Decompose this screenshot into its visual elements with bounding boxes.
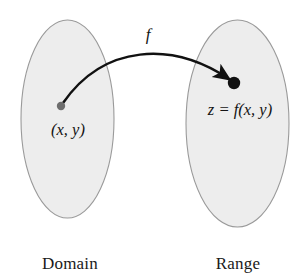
range-point-dot xyxy=(228,77,240,89)
domain-point-dot xyxy=(57,102,65,110)
range-caption: Range xyxy=(176,254,300,274)
range-point-label: z = f(x, y) xyxy=(188,100,292,120)
domain-ellipse xyxy=(21,20,114,218)
function-arrow-label: f xyxy=(128,25,168,45)
range-ellipse xyxy=(186,20,289,227)
function-mapping-figure: f (x, y) z = f(x, y) Domain Range xyxy=(0,0,306,277)
domain-caption: Domain xyxy=(8,254,132,274)
domain-point-label: (x, y) xyxy=(22,120,114,140)
